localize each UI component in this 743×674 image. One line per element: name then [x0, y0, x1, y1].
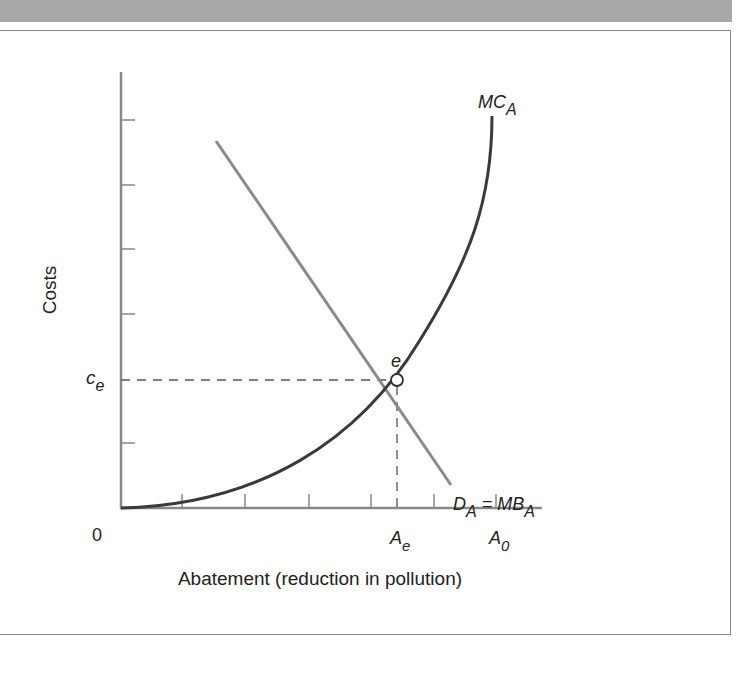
y-axis-title: Costs	[39, 266, 60, 315]
x-ticks	[182, 494, 496, 508]
x-axis-title: Abatement (reduction in pollution)	[178, 568, 462, 589]
mc-label: MCA	[478, 92, 517, 118]
a0-label: A0	[488, 528, 510, 554]
equilibrium-point	[391, 374, 403, 386]
demand-label: DA = MBA	[453, 494, 535, 520]
abatement-chart: MCA DA = MBA e ce 0 Ae A0 Abatement (red…	[0, 0, 743, 674]
ce-label: ce	[86, 367, 105, 394]
mc-curve	[121, 116, 492, 508]
origin-label: 0	[92, 525, 102, 545]
ae-label: Ae	[389, 528, 410, 554]
equilibrium-label: e	[391, 351, 401, 371]
y-ticks	[121, 120, 135, 443]
demand-mb-line	[216, 141, 451, 485]
